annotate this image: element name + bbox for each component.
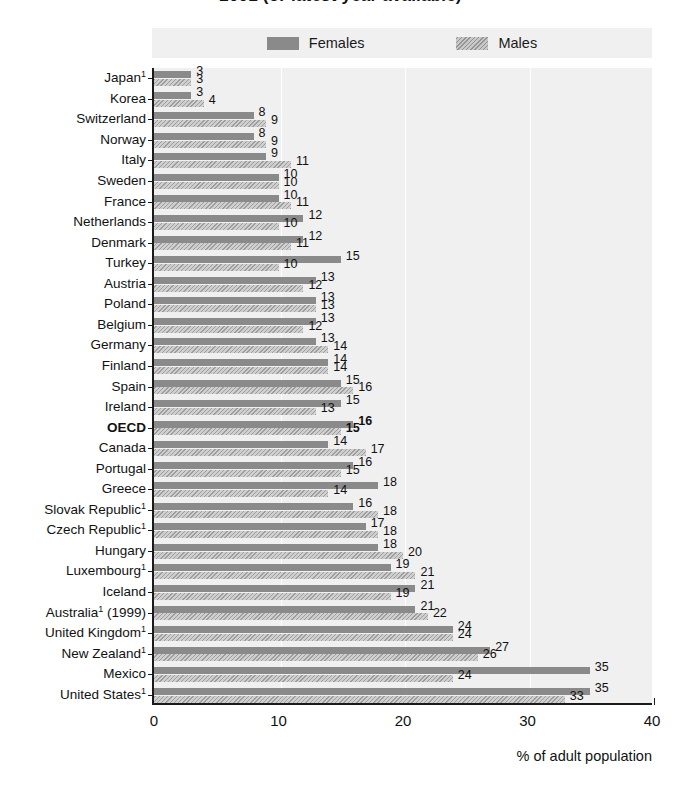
bar-value-label: 18 <box>383 476 397 489</box>
bar-value-label: 21 <box>420 566 434 579</box>
bar-females <box>154 236 303 243</box>
bar-males <box>154 572 415 579</box>
chart-title: 2001 (or latest year available) <box>0 0 681 6</box>
bar-value-label: 13 <box>321 271 335 284</box>
bar-value-label: 13 <box>321 402 335 415</box>
bar-females <box>154 195 279 202</box>
bar-females <box>154 626 453 633</box>
bar-females <box>154 606 415 613</box>
bar-females <box>154 564 391 571</box>
bar-females <box>154 647 490 654</box>
bar-males <box>154 161 291 168</box>
bar-males <box>154 490 328 497</box>
bar-females <box>154 462 353 469</box>
bar-females <box>154 318 316 325</box>
bar-value-label: 18 <box>383 505 397 518</box>
bar-males <box>154 552 403 559</box>
category-label: Germany <box>0 338 146 352</box>
category-label: Portugal <box>0 462 146 476</box>
bar-males <box>154 202 291 209</box>
bar-females <box>154 112 254 119</box>
bar-females <box>154 338 316 345</box>
bar-value-label: 10 <box>284 176 298 189</box>
bar-value-label: 22 <box>433 607 447 620</box>
bar-males <box>154 593 391 600</box>
bar-males <box>154 613 428 620</box>
bar-females <box>154 359 328 366</box>
bar-value-label: 11 <box>296 155 309 168</box>
bar-females <box>154 544 378 551</box>
bar-males <box>154 346 328 353</box>
bar-value-label: 24 <box>458 628 472 641</box>
category-label: Switzerland <box>0 112 146 126</box>
bar-females <box>154 256 341 263</box>
category-label: New Zealand1 <box>0 647 146 661</box>
bar-females <box>154 277 316 284</box>
legend: Females Males <box>152 28 652 58</box>
bar-value-label: 11 <box>296 237 309 250</box>
bar-females <box>154 503 353 510</box>
bar-males <box>154 100 204 107</box>
category-label: Hungary <box>0 544 146 558</box>
x-gridline <box>530 68 531 703</box>
bar-males <box>154 675 453 682</box>
bar-value-label: 14 <box>333 484 347 497</box>
bar-males <box>154 696 565 703</box>
bar-value-label: 19 <box>396 558 410 571</box>
bar-males <box>154 223 279 230</box>
bar-females <box>154 71 191 78</box>
bar-males <box>154 305 316 312</box>
bar-value-label: 11 <box>296 196 309 209</box>
bar-males <box>154 428 341 435</box>
bar-males <box>154 141 266 148</box>
bar-value-label: 15 <box>346 394 360 407</box>
category-label: Korea <box>0 92 146 106</box>
category-label: Turkey <box>0 256 146 270</box>
bar-value-label: 9 <box>271 114 278 127</box>
bar-males <box>154 243 291 250</box>
bar-value-label: 10 <box>284 258 298 271</box>
bar-value-label: 9 <box>271 135 278 148</box>
bar-value-label: 18 <box>383 538 397 551</box>
x-axis: 010203040 <box>152 712 652 734</box>
bar-females <box>154 585 415 592</box>
bar-males <box>154 182 279 189</box>
category-label: Spain <box>0 380 146 394</box>
plot-area-wrapper: Japan1KoreaSwitzerlandNorwayItalySwedenF… <box>0 68 681 708</box>
category-label: Ireland <box>0 400 146 414</box>
bar-value-label: 3 <box>196 73 203 86</box>
bar-value-label: 12 <box>308 230 322 243</box>
bar-value-label: 16 <box>358 415 372 428</box>
category-label: Netherlands <box>0 215 146 229</box>
bar-females <box>154 215 303 222</box>
bar-value-label: 15 <box>346 422 360 435</box>
bar-males <box>154 264 279 271</box>
bar-value-label: 16 <box>358 456 372 469</box>
bar-value-label: 24 <box>458 669 472 682</box>
bar-value-label: 13 <box>321 312 335 325</box>
category-label: Sweden <box>0 174 146 188</box>
bar-value-label: 8 <box>259 127 266 140</box>
category-label: Denmark <box>0 236 146 250</box>
legend-item-males: Males <box>456 35 537 51</box>
x-axis-title: % of adult population <box>517 748 652 764</box>
x-tick-label: 30 <box>519 712 536 729</box>
bar-value-label: 16 <box>358 497 372 510</box>
bar-value-label: 13 <box>321 299 335 312</box>
bar-value-label: 20 <box>408 546 422 559</box>
bar-males <box>154 654 478 661</box>
bar-males <box>154 367 328 374</box>
bar-females <box>154 400 341 407</box>
bar-females <box>154 92 191 99</box>
bar-value-label: 15 <box>346 250 360 263</box>
bar-value-label: 10 <box>284 217 298 230</box>
bar-value-label: 33 <box>570 690 584 703</box>
bar-males <box>154 408 316 415</box>
category-label: Iceland <box>0 585 146 599</box>
category-label: Italy <box>0 153 146 167</box>
male-swatch-icon <box>456 37 488 50</box>
bar-value-label: 21 <box>420 579 434 592</box>
category-label: OECD <box>0 421 146 435</box>
bar-value-label: 18 <box>383 525 397 538</box>
bar-value-label: 16 <box>358 381 372 394</box>
